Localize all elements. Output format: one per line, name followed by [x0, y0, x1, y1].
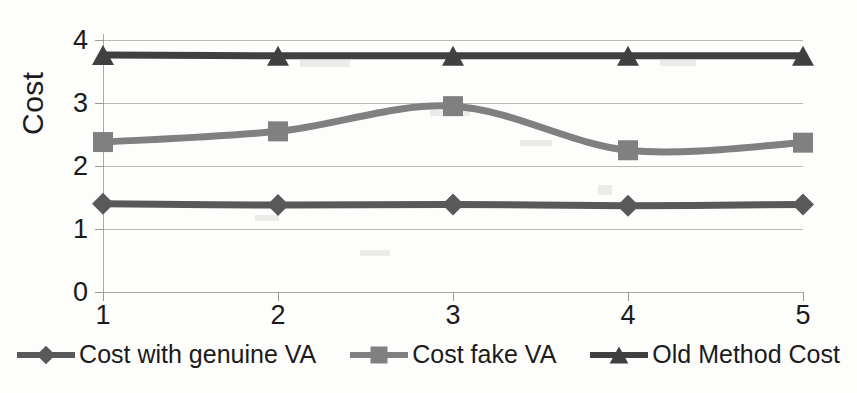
data-point-0-4	[792, 193, 814, 215]
diamond-marker-icon	[17, 344, 75, 366]
gridline-y-4	[103, 40, 803, 41]
scan-speckle	[360, 250, 390, 256]
legend-item-2[interactable]: Old Method Cost	[590, 342, 840, 367]
y-tick-label-2: 2	[48, 153, 88, 180]
series-0	[92, 193, 814, 217]
data-point-0-1	[267, 194, 289, 216]
y-tick-4	[95, 40, 104, 41]
scan-speckle	[520, 140, 552, 146]
y-tick-3	[95, 103, 104, 104]
triangle-marker-icon	[590, 344, 648, 366]
data-point-1-4	[793, 133, 813, 153]
data-point-2-4	[792, 46, 814, 66]
y-tick-label-4: 4	[48, 27, 88, 54]
gridline-y-3	[103, 103, 803, 104]
y-axis-title: Cost	[16, 71, 50, 135]
data-point-2-2	[442, 46, 464, 66]
legend-label-0: Cost with genuine VA	[79, 342, 316, 367]
series-line-2	[103, 55, 803, 56]
chart-plot	[0, 0, 857, 393]
legend-item-0[interactable]: Cost with genuine VA	[17, 342, 316, 367]
gridline-y-1	[103, 229, 803, 230]
square-marker-icon	[350, 344, 408, 366]
y-tick-label-3: 3	[48, 90, 88, 117]
legend-marker-1	[367, 343, 391, 367]
data-point-1-1	[268, 121, 288, 141]
legend-marker-0	[34, 343, 58, 367]
series-line-0	[103, 204, 803, 206]
series-2	[92, 45, 814, 66]
scan-speckle	[300, 60, 350, 67]
data-point-0-2	[442, 193, 464, 215]
data-point-2-3	[617, 46, 639, 66]
y-tick-1	[95, 229, 104, 230]
scan-speckle	[598, 185, 612, 195]
data-point-2-1	[267, 46, 289, 66]
x-tick-label-5: 5	[773, 302, 833, 329]
series-1	[93, 96, 813, 160]
x-tick-label-4: 4	[598, 302, 658, 329]
legend-item-1[interactable]: Cost fake VA	[350, 342, 556, 367]
scan-speckle	[255, 215, 279, 221]
series-line-1	[103, 106, 803, 152]
gridline-y-2	[103, 166, 803, 167]
chart-legend: Cost with genuine VACost fake VAOld Meth…	[0, 342, 857, 367]
chart-page: Cost 01234 12345 Cost with genuine VACos…	[0, 0, 857, 393]
data-point-0-3	[617, 195, 639, 217]
legend-marker-2	[607, 343, 631, 367]
scan-speckle	[430, 110, 470, 116]
x-tick-label-3: 3	[423, 302, 483, 329]
x-tick-label-2: 2	[248, 302, 308, 329]
x-tick-label-1: 1	[73, 302, 133, 329]
scan-speckle	[660, 60, 696, 66]
data-point-1-3	[618, 140, 638, 160]
legend-label-1: Cost fake VA	[412, 342, 556, 367]
y-tick-2	[95, 166, 104, 167]
legend-label-2: Old Method Cost	[652, 342, 840, 367]
data-point-1-2	[443, 96, 463, 116]
y-tick-label-1: 1	[48, 216, 88, 243]
